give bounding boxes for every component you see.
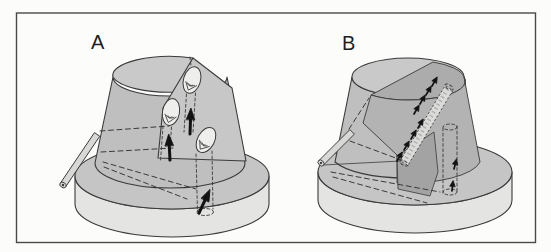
figure-page: A: [0, 0, 551, 252]
figure-canvas: A: [0, 0, 551, 252]
panel-a-label: A: [91, 31, 105, 53]
panel-b-label: B: [342, 32, 355, 54]
panel-b: B: [317, 32, 512, 233]
panel-a: A: [59, 31, 269, 237]
